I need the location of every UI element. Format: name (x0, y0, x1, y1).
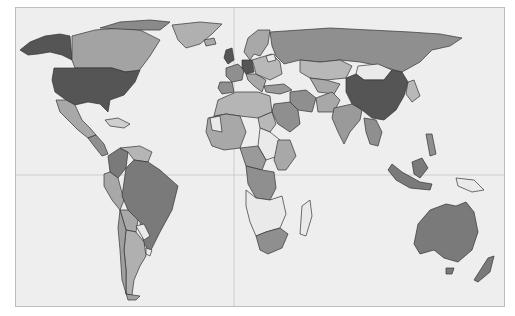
country-central-asia-stans[interactable] (310, 78, 340, 94)
country-argentina[interactable] (124, 230, 146, 295)
country-philippines[interactable] (426, 134, 436, 156)
country-spain-portugal[interactable] (218, 82, 234, 94)
country-united-kingdom[interactable] (224, 48, 234, 64)
country-india[interactable] (332, 104, 362, 144)
country-canada[interactable] (72, 28, 160, 72)
caribbean-islands[interactable] (105, 118, 130, 128)
country-east-africa[interactable] (274, 140, 296, 170)
country-france[interactable] (226, 64, 244, 82)
country-new-zealand[interactable] (474, 256, 494, 282)
country-australia[interactable] (414, 202, 478, 262)
country-madagascar[interactable] (300, 200, 312, 236)
country-peru-ecuador[interactable] (104, 172, 124, 210)
country-mexico[interactable] (56, 100, 96, 138)
country-tasmania[interactable] (446, 268, 454, 274)
country-papua-new-guinea[interactable] (456, 178, 484, 192)
world-map (0, 0, 515, 316)
canada-arctic-islands[interactable] (100, 20, 170, 30)
country-mauritania[interactable] (210, 116, 222, 132)
country-turkey[interactable] (264, 84, 292, 94)
country-southeast-asia[interactable] (364, 118, 382, 146)
country-korea-japan[interactable] (406, 80, 420, 102)
country-alaska[interactable] (20, 34, 72, 60)
country-north-africa[interactable] (214, 92, 272, 118)
central-america[interactable] (88, 135, 108, 156)
country-kazakhstan[interactable] (300, 60, 352, 80)
